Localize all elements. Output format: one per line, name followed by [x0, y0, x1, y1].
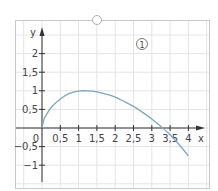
x-axis-label: x: [198, 133, 204, 144]
origin-label: 0: [33, 133, 39, 144]
y-tick-label: 0,5: [22, 104, 38, 115]
y-tick-label: 1,5: [22, 67, 38, 78]
chart-frame: [16, 21, 210, 189]
function-graph: 0,511,522,533,5421,510,5−0,5−10xy 1: [0, 0, 218, 191]
y-tick-label: 1: [32, 85, 38, 96]
resize-handle[interactable]: [93, 16, 102, 25]
x-tick-label: 2,5: [126, 133, 142, 144]
x-tick-label: 2: [112, 133, 118, 144]
x-tick-label: 3: [149, 133, 155, 144]
marker-number: 1: [139, 41, 144, 50]
x-tick-label: 4: [185, 133, 191, 144]
x-tick-label: 1,5: [89, 133, 105, 144]
x-tick-label: 0,5: [52, 133, 68, 144]
y-tick-label: 2: [32, 48, 38, 59]
y-axis-label: y: [30, 27, 36, 38]
y-tick-label: −1: [23, 160, 38, 171]
x-tick-label: 1: [75, 133, 81, 144]
